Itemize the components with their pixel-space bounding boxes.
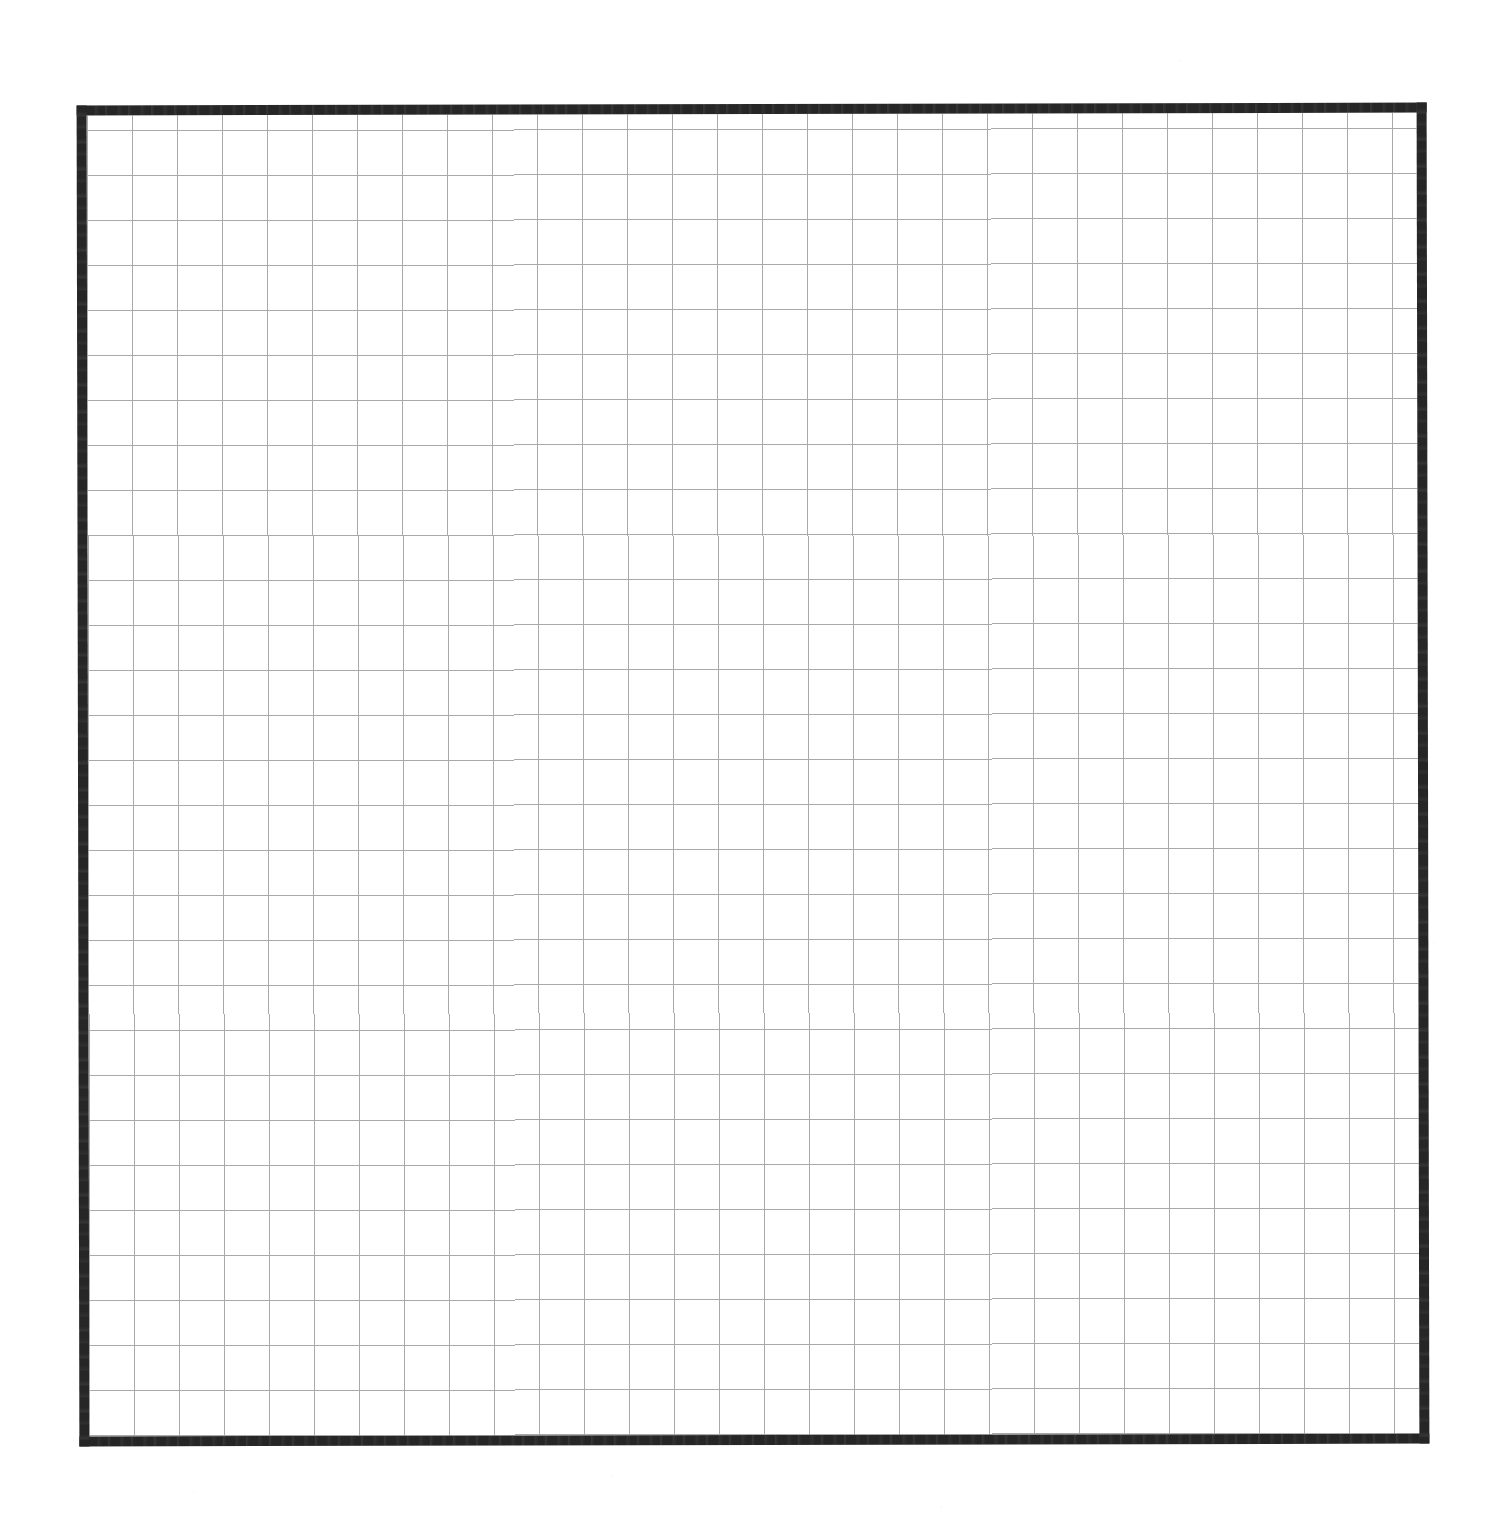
graph-paper-page: [0, 0, 1494, 1522]
border-edge-right: [1417, 103, 1430, 1444]
square-grid: [87, 113, 1420, 1437]
border-edge-bottom: [79, 1434, 1429, 1447]
outer-border-rectangle: [77, 103, 1430, 1447]
grid-surface: [87, 113, 1420, 1437]
